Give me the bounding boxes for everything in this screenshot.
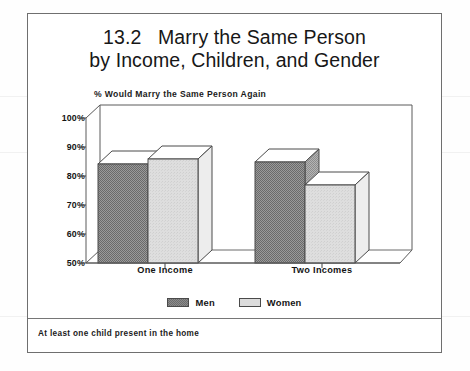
bar-women-one-income (148, 146, 212, 263)
chart-legend: Men Women (27, 297, 442, 308)
legend-item-women: Women (239, 297, 302, 308)
legend-swatch-women-icon (239, 298, 261, 307)
bar-chart-svg (60, 100, 420, 280)
footnote-text: At least one child present in the home (38, 329, 199, 338)
x-axis-category-labels: One Income Two Incomes (60, 265, 420, 281)
legend-label-men: Men (195, 297, 214, 308)
legend-label-women: Women (267, 297, 302, 308)
y-axis-title: % Would Marry the Same Person Again (94, 89, 266, 99)
legend-swatch-men-icon (167, 298, 189, 307)
chart-title-line-1: 13.2 Marry the Same Person (27, 26, 442, 49)
chart-title: 13.2 Marry the Same Person by Income, Ch… (27, 26, 442, 72)
bar-chart-plot-area (60, 100, 420, 275)
category-label-two-incomes: Two Incomes (292, 265, 353, 275)
slide-page: 13.2 Marry the Same Person by Income, Ch… (0, 0, 470, 371)
y-axis-ticks (81, 118, 86, 263)
chart-title-line-2: by Income, Children, and Gender (27, 49, 442, 72)
bar-women-two-incomes (305, 172, 369, 263)
footnote-divider (28, 318, 441, 319)
legend-item-men: Men (167, 297, 214, 308)
category-label-one-income: One Income (137, 265, 193, 275)
